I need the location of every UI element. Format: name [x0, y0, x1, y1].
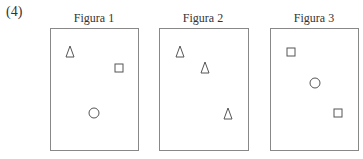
square-icon	[115, 64, 123, 72]
triangle-icon	[224, 108, 232, 119]
circle-icon	[89, 108, 99, 118]
square-icon	[287, 48, 295, 56]
square-icon	[334, 109, 342, 117]
triangle-icon	[201, 62, 209, 73]
figure-shapes	[0, 0, 363, 159]
circle-icon	[310, 78, 320, 88]
triangle-icon	[176, 46, 184, 57]
triangle-icon	[66, 46, 74, 57]
